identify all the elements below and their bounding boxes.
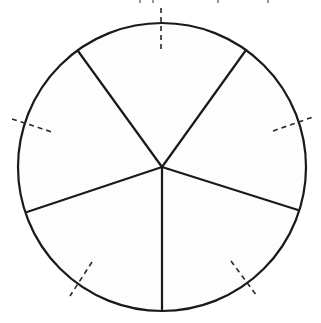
- top-edge-fragments: [140, 0, 268, 3]
- sector-circle-diagram: [0, 0, 321, 323]
